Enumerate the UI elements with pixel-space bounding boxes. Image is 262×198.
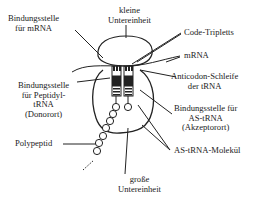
label-peptidyl-binding-site: Bindungsstelle für Peptidyl- tRNA (Donor… bbox=[18, 81, 69, 119]
label-large-subunit: große Untereinheit bbox=[118, 175, 161, 194]
label-aa-trna-binding-site: Bindungsstelle für AS-tRNA (Akzeptorort) bbox=[174, 104, 237, 133]
trna-pair bbox=[112, 66, 133, 103]
label-line: Untereinheit bbox=[108, 16, 151, 26]
ribosome-diagram: Bindungsstelle für mRNA kleine Untereinh… bbox=[0, 0, 262, 198]
label-anticodon-loop: Anticodon-Schleife der tRNA bbox=[171, 72, 238, 91]
small-subunit-shape bbox=[98, 36, 152, 66]
label-mrna: mRNA bbox=[184, 51, 209, 61]
label-polypeptide: Polypeptid bbox=[15, 139, 52, 149]
label-code-triplets: Code-Tripletts bbox=[184, 28, 234, 38]
label-small-subunit: kleine Untereinheit bbox=[108, 6, 151, 25]
label-line: für mRNA bbox=[8, 24, 59, 34]
polypeptide-chain bbox=[93, 103, 131, 154]
label-mrna-binding-site: Bindungsstelle für mRNA bbox=[8, 14, 59, 33]
label-line: (Akzeptorort) bbox=[174, 123, 237, 133]
label-aa-trna-molecule: AS-tRNA-Molekül bbox=[174, 146, 240, 156]
label-line: Untereinheit bbox=[118, 185, 161, 195]
label-line: (Donorort) bbox=[18, 110, 69, 120]
label-line: der tRNA bbox=[171, 82, 238, 92]
